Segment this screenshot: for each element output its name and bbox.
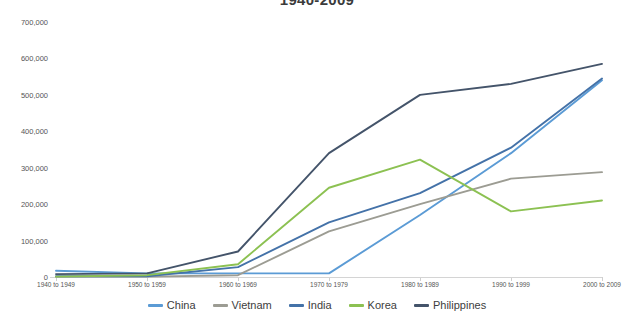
legend-label: China	[167, 300, 196, 311]
legend-swatch-icon	[148, 304, 163, 307]
x-tick-label: 2000 to 2009	[583, 281, 621, 288]
legend-item-philippines[interactable]: Philippines	[414, 300, 486, 311]
legend-swatch-icon	[289, 304, 304, 307]
series-lines	[0, 0, 634, 322]
y-tick-label: 100,000	[0, 236, 48, 245]
x-tick-label: 1980 to 1989	[401, 281, 439, 288]
y-tick-label: 600,000	[0, 54, 48, 63]
x-tick-mark	[602, 277, 603, 281]
chart-title: 1940-2009	[0, 0, 634, 8]
x-tick-label: 1940 to 1949	[37, 281, 75, 288]
x-tick-label: 1990 to 1999	[492, 281, 530, 288]
x-axis-line	[56, 277, 602, 278]
series-line-korea	[56, 160, 602, 277]
y-tick-label: 200,000	[0, 200, 48, 209]
line-chart: 1940-2009 0100,000200,000300,000400,0005…	[0, 0, 634, 322]
y-tick-label: 300,000	[0, 163, 48, 172]
series-line-philippines	[56, 64, 602, 274]
y-tick-label: 400,000	[0, 127, 48, 136]
series-line-vietnam	[56, 172, 602, 277]
legend-item-korea[interactable]: Korea	[349, 300, 397, 311]
x-tick-label: 1970 to 1979	[310, 281, 348, 288]
legend-swatch-icon	[349, 304, 364, 307]
x-tick-label: 1960 to 1969	[219, 281, 257, 288]
y-tick-label: 700,000	[0, 18, 48, 27]
legend-swatch-icon	[414, 304, 429, 307]
legend-item-india[interactable]: India	[289, 300, 332, 311]
legend-swatch-icon	[213, 304, 228, 307]
x-tick-label: 1950 to 1959	[128, 281, 166, 288]
chart-legend: ChinaVietnamIndiaKoreaPhilippines	[0, 300, 634, 311]
series-line-india	[56, 78, 602, 276]
series-line-china	[56, 80, 602, 273]
legend-label: Korea	[368, 300, 397, 311]
legend-item-vietnam[interactable]: Vietnam	[213, 300, 272, 311]
x-axis-left-stub	[50, 277, 56, 278]
legend-label: India	[308, 300, 332, 311]
y-tick-label: 500,000	[0, 90, 48, 99]
legend-item-china[interactable]: China	[148, 300, 196, 311]
legend-label: Vietnam	[232, 300, 272, 311]
legend-label: Philippines	[433, 300, 486, 311]
